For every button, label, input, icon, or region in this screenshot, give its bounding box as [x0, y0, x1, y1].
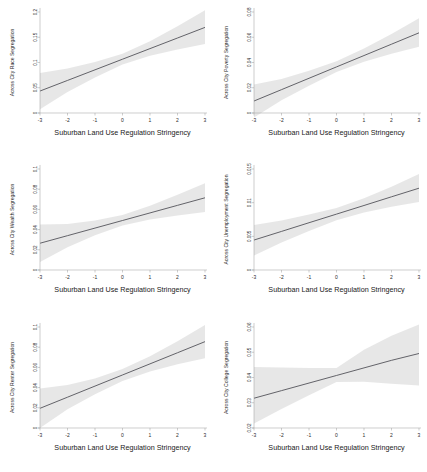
- chart-panel-3: 00.020.040.060.080.1-3-2-10123Across Cit…: [0, 157, 214, 314]
- y-tick-label: 0.015: [247, 163, 252, 175]
- x-tick-label: 1: [362, 432, 365, 438]
- x-tick-label: -3: [38, 274, 43, 280]
- chart-panel-6: 0.020.030.040.050.06-3-2-10123Across Cit…: [214, 315, 427, 472]
- y-tick-label: 0.06: [247, 32, 252, 41]
- y-tick-label: 0.04: [33, 382, 38, 391]
- x-tick-label: 3: [417, 117, 420, 123]
- y-axis-title: Across City Wealth Segregation: [9, 184, 15, 256]
- x-tick-label: -2: [65, 117, 70, 123]
- x-tick-label: -1: [306, 117, 311, 123]
- x-tick-label: 2: [390, 117, 393, 123]
- chart-panel-5: 00.020.040.060.080.1-3-2-10123Across Cit…: [0, 315, 214, 472]
- confidence-band: [40, 325, 205, 428]
- x-tick-label: -3: [38, 117, 43, 123]
- x-tick-label: 0: [121, 274, 124, 280]
- regression-plot-3: 00.020.040.060.080.1-3-2-10123Across Cit…: [0, 157, 214, 314]
- y-tick-label: 0.06: [33, 205, 38, 214]
- x-tick-label: 1: [362, 117, 365, 123]
- y-tick-label: 0.03: [247, 398, 252, 407]
- y-tick-label: 0.06: [247, 322, 252, 331]
- y-tick-label: 0.05: [33, 83, 38, 92]
- confidence-band: [254, 174, 419, 255]
- x-tick-label: -2: [65, 274, 70, 280]
- confidence-band: [254, 18, 419, 117]
- regression-fit-line: [254, 33, 419, 101]
- chart-panel-4: 00.0050.010.015-3-2-10123Across City Une…: [214, 157, 427, 314]
- regression-plot-1: 00.050.10.150.2-3-2-10123Across City Rac…: [0, 0, 214, 157]
- x-tick-label: 2: [176, 432, 179, 438]
- x-axis-title: Suburban Land Use Regulation Stringency: [54, 128, 191, 137]
- chart-panel-1: 00.050.10.150.2-3-2-10123Across City Rac…: [0, 0, 214, 157]
- regression-fit-line: [40, 198, 205, 243]
- regression-fit-line: [254, 189, 419, 241]
- confidence-band: [40, 10, 205, 109]
- regression-fit-line: [40, 341, 205, 408]
- x-tick-label: -2: [279, 117, 284, 123]
- x-tick-label: 0: [335, 274, 338, 280]
- chart-panel-2: 00.020.040.060.08-3-2-10123Across City P…: [214, 0, 427, 157]
- x-tick-label: 1: [149, 117, 152, 123]
- x-axis-title: Suburban Land Use Regulation Stringency: [54, 285, 191, 294]
- y-tick-label: 0.04: [247, 58, 252, 67]
- y-tick-label: 0.02: [33, 403, 38, 412]
- y-tick-label: 0.02: [33, 245, 38, 254]
- x-tick-label: 1: [149, 432, 152, 438]
- x-tick-label: 1: [362, 274, 365, 280]
- x-tick-label: -2: [279, 432, 284, 438]
- regression-plot-6: 0.020.030.040.050.06-3-2-10123Across Cit…: [214, 315, 427, 472]
- x-tick-label: 2: [176, 274, 179, 280]
- x-tick-label: -3: [251, 117, 256, 123]
- y-tick-label: 0: [33, 269, 38, 272]
- x-tick-label: -3: [251, 274, 256, 280]
- regression-plot-2: 00.020.040.060.08-3-2-10123Across City P…: [214, 0, 427, 157]
- y-tick-label: 0.005: [247, 230, 252, 242]
- x-tick-label: -1: [93, 274, 98, 280]
- x-tick-label: 0: [121, 117, 124, 123]
- x-tick-label: -2: [65, 432, 70, 438]
- x-tick-label: 1: [149, 274, 152, 280]
- y-tick-label: 0.08: [33, 342, 38, 351]
- y-tick-label: 0: [33, 111, 38, 114]
- y-tick-label: 0.08: [33, 185, 38, 194]
- y-tick-label: 0.2: [33, 8, 38, 15]
- y-tick-label: 0.04: [247, 372, 252, 381]
- y-tick-label: 0.01: [247, 198, 252, 207]
- x-axis-title: Suburban Land Use Regulation Stringency: [268, 128, 405, 137]
- x-tick-label: -2: [279, 274, 284, 280]
- y-tick-label: 0.04: [33, 225, 38, 234]
- y-axis-title: Across City Race Segregation: [9, 28, 15, 96]
- confidence-band: [254, 324, 419, 423]
- y-tick-label: 0.1: [33, 323, 38, 330]
- y-axis-title: Across City Poverty Segregation: [223, 26, 229, 99]
- x-tick-label: 3: [204, 274, 207, 280]
- x-tick-label: -1: [306, 432, 311, 438]
- figure-panel-grid: 00.050.10.150.2-3-2-10123Across City Rac…: [0, 0, 427, 472]
- x-tick-label: -1: [306, 274, 311, 280]
- x-tick-label: 2: [176, 117, 179, 123]
- x-axis-title: Suburban Land Use Regulation Stringency: [268, 285, 405, 294]
- y-tick-label: 0.1: [33, 166, 38, 173]
- regression-plot-4: 00.0050.010.015-3-2-10123Across City Une…: [214, 157, 427, 314]
- y-tick-label: 0.02: [247, 83, 252, 92]
- confidence-band: [40, 183, 205, 262]
- y-tick-label: 0.15: [33, 32, 38, 41]
- y-tick-label: 0.05: [247, 347, 252, 356]
- x-tick-label: -3: [38, 432, 43, 438]
- y-tick-label: 0: [33, 426, 38, 429]
- y-tick-label: 0: [247, 269, 252, 272]
- x-tick-label: 3: [417, 274, 420, 280]
- x-tick-label: 0: [335, 432, 338, 438]
- x-tick-label: 2: [390, 432, 393, 438]
- regression-plot-5: 00.020.040.060.080.1-3-2-10123Across Cit…: [0, 315, 214, 472]
- y-tick-label: 0.1: [33, 59, 38, 66]
- x-tick-label: 3: [204, 432, 207, 438]
- x-axis-title: Suburban Land Use Regulation Stringency: [54, 443, 191, 452]
- x-tick-label: -3: [251, 432, 256, 438]
- y-tick-label: 0.08: [247, 7, 252, 16]
- x-tick-label: 0: [335, 117, 338, 123]
- x-tick-label: 2: [390, 274, 393, 280]
- x-tick-label: -1: [93, 432, 98, 438]
- x-axis-title: Suburban Land Use Regulation Stringency: [268, 443, 405, 452]
- regression-fit-line: [40, 27, 205, 91]
- y-axis-title: Across City Renter Segregation: [9, 341, 15, 412]
